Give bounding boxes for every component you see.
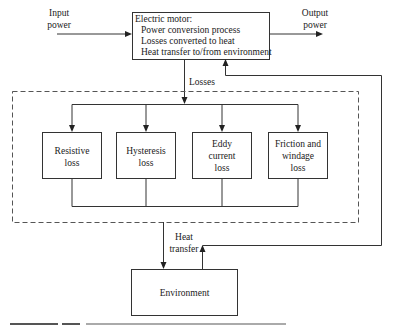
heat-transfer-label-line2: transfer bbox=[169, 244, 199, 254]
friction-line3: loss bbox=[291, 163, 306, 173]
loss-collector-lines bbox=[72, 179, 298, 207]
eddy-line3: loss bbox=[215, 163, 230, 173]
feedback-up-arrowhead-icon-motor bbox=[223, 59, 229, 66]
heat-transfer-down-arrowhead-icon bbox=[161, 262, 167, 269]
output-power-label-line2: power bbox=[303, 20, 328, 30]
input-power-group: Input power bbox=[47, 8, 132, 37]
input-power-label-line1: Input bbox=[49, 8, 69, 18]
motor-line-power-conversion: Power conversion process bbox=[141, 25, 241, 35]
output-power-arrowhead-icon bbox=[316, 31, 323, 37]
electric-motor-box: Electric motor: Power conversion process… bbox=[133, 13, 272, 60]
motor-line-losses-heat: Losses converted to heat bbox=[141, 36, 235, 46]
output-power-group: Output power bbox=[269, 8, 329, 37]
hysteresis-line2: loss bbox=[139, 158, 154, 168]
motor-line-heat-transfer: Heat transfer to/from environment bbox=[141, 47, 272, 57]
arrowhead-icon-eddy bbox=[219, 125, 225, 132]
environment-label: Environment bbox=[160, 288, 210, 298]
hysteresis-line1: Hysteresis bbox=[126, 146, 166, 156]
loss-distribution-lines bbox=[69, 105, 301, 133]
loss-box-friction-windage: Friction and windage loss bbox=[269, 133, 328, 179]
heat-transfer-label-line1: Heat bbox=[175, 232, 193, 242]
environment-box: Environment bbox=[132, 270, 238, 316]
eddy-line1: Eddy bbox=[212, 139, 232, 149]
motor-loss-diagram: Input power Electric motor: Power conver… bbox=[0, 0, 393, 325]
heat-transfer-connector: Heat transfer bbox=[161, 222, 200, 269]
motor-title: Electric motor: bbox=[135, 14, 192, 24]
resistive-line2: loss bbox=[65, 158, 80, 168]
arrowhead-icon-resistive bbox=[69, 125, 75, 132]
friction-line1: Friction and bbox=[275, 139, 321, 149]
losses-arrowhead-icon bbox=[182, 97, 188, 104]
eddy-line2: current bbox=[209, 151, 236, 161]
resistive-line1: Resistive bbox=[55, 146, 90, 156]
friction-line2: windage bbox=[282, 151, 314, 161]
loss-box-resistive: Resistive loss bbox=[43, 133, 102, 179]
loss-box-eddy-current: Eddy current loss bbox=[193, 133, 252, 179]
arrowhead-icon-friction bbox=[295, 125, 301, 132]
arrowhead-icon-hysteresis bbox=[143, 125, 149, 132]
losses-label: Losses bbox=[189, 77, 215, 87]
output-power-label-line1: Output bbox=[302, 8, 329, 18]
input-power-label-line2: power bbox=[47, 20, 72, 30]
loss-box-hysteresis: Hysteresis loss bbox=[117, 133, 176, 179]
feedback-up-arrowhead-icon-env bbox=[200, 245, 206, 252]
losses-connector: Losses bbox=[182, 59, 216, 104]
input-power-arrowhead-icon bbox=[125, 31, 132, 37]
